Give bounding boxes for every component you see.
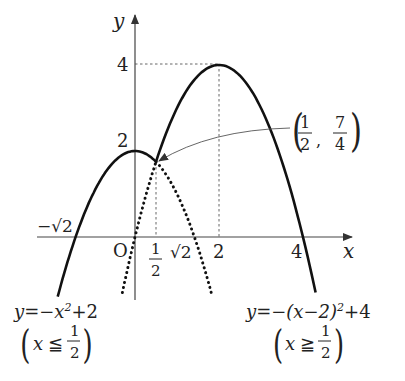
svg-text:7: 7 <box>335 113 345 132</box>
x-tick-2: 2 <box>213 241 224 262</box>
svg-text:(: ( <box>273 321 283 367</box>
origin-label: O <box>113 240 128 261</box>
svg-text:(: ( <box>20 321 30 367</box>
x-tick-half: 1 2 <box>149 240 162 280</box>
svg-text:≦: ≦ <box>48 333 63 354</box>
svg-text:x: x <box>33 333 43 354</box>
svg-text:): ) <box>334 321 344 367</box>
svg-text:): ) <box>83 321 93 367</box>
svg-text:1: 1 <box>321 322 331 340</box>
svg-text:4: 4 <box>335 135 345 154</box>
x-tick-neg-sqrt2: −√2 <box>37 216 73 236</box>
y-axis-label: y <box>112 9 125 33</box>
svg-text:≧: ≧ <box>300 333 315 354</box>
left-parabola-dotted <box>156 162 211 294</box>
svg-text:): ) <box>350 105 362 156</box>
svg-text:1: 1 <box>151 240 161 258</box>
svg-text:y=−(x−2)2+4: y=−(x−2)2+4 <box>245 301 371 322</box>
right-equation-label: y=−(x−2)2+4 <box>245 301 371 322</box>
function-graph: y x O 4 2 −√2 1 2 √2 2 4 ( 1 2 , 7 4 ) <box>0 0 405 381</box>
svg-text:−√2: −√2 <box>37 216 73 236</box>
x-axis-label: x <box>343 239 354 263</box>
y-tick-4: 4 <box>117 54 128 75</box>
point-annotation: ( 1 2 , 7 4 ) <box>292 105 362 156</box>
svg-text:2: 2 <box>151 262 161 280</box>
left-equation-label: y=−x2+2 <box>13 301 98 322</box>
svg-text:x: x <box>285 333 295 354</box>
svg-text:2: 2 <box>321 344 331 362</box>
svg-text:y=−x2+2: y=−x2+2 <box>13 301 98 322</box>
left-domain-label: ( x ≦ 1 2 ) <box>20 321 93 367</box>
x-tick-sqrt2: √2 <box>170 242 192 262</box>
right-domain-label: ( x ≧ 1 2 ) <box>273 321 344 367</box>
svg-text:1: 1 <box>70 322 80 340</box>
y-tick-2: 2 <box>117 130 128 151</box>
annotation-arrow <box>159 128 290 161</box>
svg-text:,: , <box>316 131 321 150</box>
x-tick-4: 4 <box>291 241 302 262</box>
svg-text:2: 2 <box>70 344 80 362</box>
svg-text:2: 2 <box>300 135 310 154</box>
svg-text:1: 1 <box>300 113 310 132</box>
